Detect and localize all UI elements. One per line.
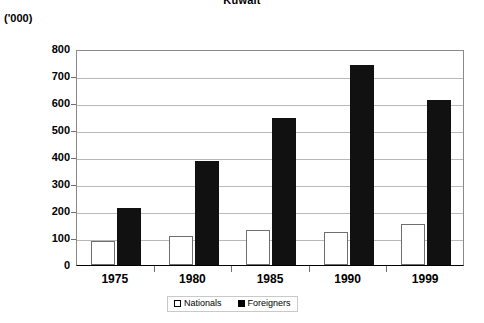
bar-foreigners-1999[interactable] (427, 100, 451, 265)
bar-nationals-1990[interactable] (324, 232, 348, 265)
y-tick-label-100: 100 (10, 233, 70, 244)
bar-foreigners-1990[interactable] (350, 65, 374, 265)
legend-label-foreigners: Foreigners (248, 298, 291, 309)
bar-group-1975 (77, 51, 155, 265)
bar-nationals-1985[interactable] (246, 230, 270, 265)
bar-nationals-1980[interactable] (169, 236, 193, 265)
bar-group-1999 (387, 51, 465, 265)
chart-legend: Nationals Foreigners (167, 296, 298, 312)
legend-swatch-open-square-icon (174, 300, 181, 307)
y-axis-unit-label: ('000) (4, 12, 32, 25)
y-tick-label-0: 0 (10, 260, 70, 271)
bar-foreigners-1980[interactable] (195, 161, 219, 265)
bar-nationals-1999[interactable] (401, 224, 425, 265)
y-tick-label-800: 800 (10, 44, 70, 55)
legend-swatch-filled-square-icon (238, 300, 245, 307)
y-tick-label-300: 300 (10, 179, 70, 190)
x-tick-label-1985: 1985 (231, 272, 309, 286)
legend-label-nationals: Nationals (184, 298, 222, 309)
legend-entry-nationals[interactable]: Nationals (174, 298, 222, 309)
bar-group-1980 (155, 51, 233, 265)
bar-chart-figure: Kuwait ('000) 800 700 600 500 400 300 20… (0, 0, 484, 323)
plot-area (76, 50, 464, 266)
x-tick-label-1990: 1990 (309, 272, 387, 286)
y-tick-label-200: 200 (10, 206, 70, 217)
bar-nationals-1975[interactable] (91, 241, 115, 265)
y-tick-label-400: 400 (10, 152, 70, 163)
y-tick-label-700: 700 (10, 71, 70, 82)
x-tick-label-1999: 1999 (386, 272, 464, 286)
chart-title: Kuwait (0, 0, 484, 6)
bar-group-1990 (310, 51, 388, 265)
bar-group-1985 (232, 51, 310, 265)
bar-foreigners-1975[interactable] (117, 208, 141, 265)
y-tick-label-600: 600 (10, 98, 70, 109)
x-tick-label-1975: 1975 (76, 272, 154, 286)
legend-entry-foreigners[interactable]: Foreigners (238, 298, 291, 309)
y-tick-label-500: 500 (10, 125, 70, 136)
bar-foreigners-1985[interactable] (272, 118, 296, 265)
x-tick-label-1980: 1980 (154, 272, 232, 286)
